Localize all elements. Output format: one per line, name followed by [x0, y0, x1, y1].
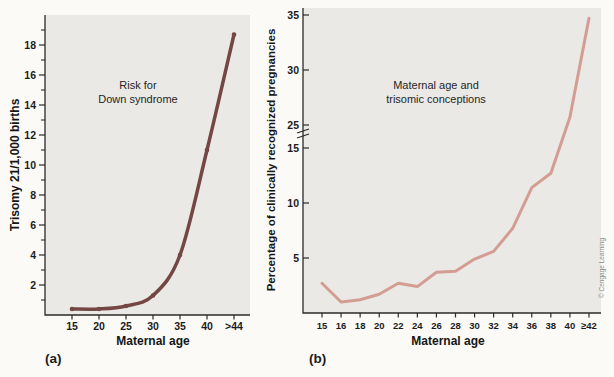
y-tick-label: 6: [30, 219, 36, 231]
x-tick-label: >44: [225, 320, 243, 332]
x-tick-label: ≥42: [581, 320, 597, 331]
data-point-marker: [124, 304, 129, 309]
y-tick-label: 18: [24, 39, 36, 51]
x-tick-label: 30: [147, 320, 159, 332]
y-tick-label: 2: [30, 279, 36, 291]
y-tick-label: 5: [293, 252, 299, 264]
y-tick-label: 4: [30, 249, 36, 261]
chart-a-y-axis-label: Trisomy 21/1,000 births: [8, 99, 22, 232]
panel-b-letter: (b): [309, 351, 326, 366]
x-tick-label: 22: [393, 320, 404, 331]
panel-a-letter: (a): [45, 351, 62, 366]
x-tick-label: 35: [174, 320, 186, 332]
x-tick-label: 28: [450, 320, 461, 331]
x-tick-label: 40: [565, 320, 576, 331]
y-tick-label: 10: [24, 159, 36, 171]
x-tick-label: 38: [546, 320, 557, 331]
x-tick-label: 26: [431, 320, 442, 331]
x-tick-label: 25: [120, 320, 132, 332]
chart-b-title: Maternal age and trisomic conceptions: [386, 78, 486, 106]
chart-a-plot-area: [45, 15, 250, 315]
y-tick-label: 35: [287, 9, 299, 21]
chart-a-title: Risk for Down syndrome: [98, 78, 177, 106]
x-tick-label: 16: [336, 320, 347, 331]
y-tick-label: 25: [287, 119, 299, 131]
y-tick-label: 12: [24, 129, 36, 141]
chart-b-x-axis-label: Maternal age: [411, 334, 484, 348]
x-tick-label: 34: [507, 320, 518, 331]
y-tick-label: 8: [30, 189, 36, 201]
figure: 24681012141618152025303540>44 5101525303…: [0, 0, 614, 377]
x-tick-label: 30: [469, 320, 480, 331]
x-tick-label: 36: [526, 320, 537, 331]
x-tick-label: 15: [317, 320, 328, 331]
x-tick-label: 20: [93, 320, 105, 332]
y-tick-label: 16: [24, 69, 36, 81]
data-point-marker: [232, 32, 237, 37]
data-point-marker: [70, 307, 75, 312]
chart-a-title-line1: Risk for: [98, 78, 177, 92]
x-tick-label: 18: [355, 320, 366, 331]
chart-a-title-line2: Down syndrome: [98, 92, 177, 106]
chart-b-title-line1: Maternal age and: [386, 78, 486, 92]
x-tick-label: 24: [412, 320, 423, 331]
data-point-marker: [97, 307, 102, 312]
charts-canvas: 24681012141618152025303540>44 5101525303…: [0, 0, 614, 377]
y-tick-label: 10: [287, 197, 299, 209]
copyright-credit: © Cengage Learning: [598, 238, 605, 298]
data-point-marker: [151, 293, 156, 298]
down-syndrome-chart: 24681012141618152025303540>44: [24, 15, 250, 332]
chart-a-x-axis-label: Maternal age: [116, 334, 189, 348]
y-tick-label: 30: [287, 64, 299, 76]
x-tick-label: 32: [488, 320, 499, 331]
data-point-marker: [205, 148, 210, 153]
y-tick-label: 15: [287, 142, 299, 154]
trisomic-conceptions-chart: 510152530351516182022242628303234363840≥…: [287, 8, 601, 331]
x-tick-label: 20: [374, 320, 385, 331]
chart-b-title-line2: trisomic conceptions: [386, 92, 486, 106]
x-tick-label: 40: [201, 320, 213, 332]
chart-b-y-axis-label: Percentage of clinically recognized preg…: [265, 29, 277, 292]
x-tick-label: 15: [66, 320, 78, 332]
data-point-marker: [178, 253, 183, 258]
y-tick-label: 14: [24, 99, 36, 111]
